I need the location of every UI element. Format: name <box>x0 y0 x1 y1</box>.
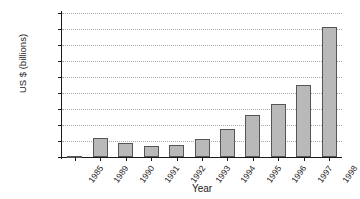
x-axis-title: Year <box>62 183 342 194</box>
gridline <box>62 61 342 62</box>
x-tick-label: 1998 <box>341 164 359 184</box>
x-tick <box>202 157 203 161</box>
x-tick <box>151 157 152 161</box>
y-axis-title: US $ (billions) <box>17 4 28 124</box>
bar <box>220 129 235 157</box>
x-tick <box>227 157 228 161</box>
gridline <box>62 29 342 30</box>
bar <box>195 139 210 157</box>
x-tick-label: 1994 <box>240 164 258 184</box>
bar <box>144 146 159 157</box>
x-tick <box>126 157 127 161</box>
x-tick-label: 1992 <box>189 164 207 184</box>
x-tick-label: 1996 <box>290 164 308 184</box>
gridline <box>62 45 342 46</box>
y-tick <box>58 45 62 46</box>
x-tick-label: 1990 <box>138 164 156 184</box>
y-tick <box>58 13 62 14</box>
y-tick <box>58 93 62 94</box>
x-tick-label: 1991 <box>163 164 181 184</box>
gridline <box>62 77 342 78</box>
x-tick-label: 1993 <box>214 164 232 184</box>
y-tick <box>58 61 62 62</box>
bar <box>118 143 133 157</box>
bar <box>271 104 286 157</box>
bar <box>245 115 260 157</box>
x-tick <box>100 157 101 161</box>
y-tick <box>58 77 62 78</box>
x-tick-label: 1985 <box>87 164 105 184</box>
y-tick <box>58 157 62 158</box>
gridline <box>62 13 342 14</box>
x-tick <box>278 157 279 161</box>
x-tick <box>329 157 330 161</box>
bar <box>322 27 337 157</box>
x-tick-label: 1995 <box>265 164 283 184</box>
plot-area: 020040060080010001200140016001800 198519… <box>62 13 342 157</box>
y-tick <box>58 141 62 142</box>
x-tick <box>75 157 76 161</box>
x-tick <box>304 157 305 161</box>
y-tick <box>58 109 62 110</box>
x-tick <box>177 157 178 161</box>
bar <box>169 145 184 157</box>
y-tick <box>58 29 62 30</box>
x-tick-label: 1997 <box>316 164 334 184</box>
bar <box>296 85 311 157</box>
x-tick-label: 1989 <box>112 164 130 184</box>
x-tick <box>253 157 254 161</box>
y-tick <box>58 125 62 126</box>
bar <box>93 138 108 157</box>
